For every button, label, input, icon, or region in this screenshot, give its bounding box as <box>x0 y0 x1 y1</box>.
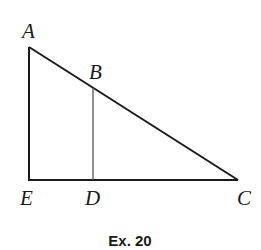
segment-AC <box>29 47 238 180</box>
label-C: C <box>237 186 252 210</box>
label-D: D <box>84 186 100 210</box>
diagram-canvas: A B E D C Ex. 20 <box>0 0 261 250</box>
label-E: E <box>19 186 33 210</box>
label-B: B <box>89 60 102 84</box>
figure-caption: Ex. 20 <box>108 232 151 249</box>
label-A: A <box>20 19 35 43</box>
triangle-figure: A B E D C Ex. 20 <box>0 0 261 250</box>
